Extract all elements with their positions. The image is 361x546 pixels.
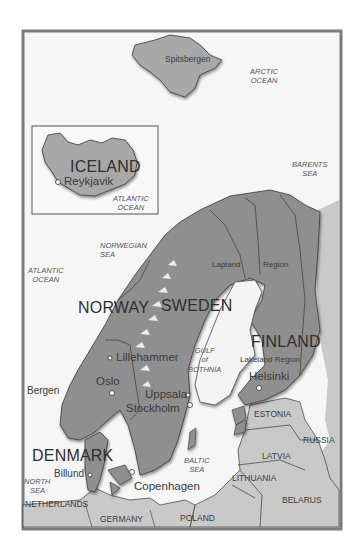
label-arctic-ocean: ARCTICOCEAN bbox=[250, 67, 278, 86]
label-russia: RUSSIA bbox=[303, 436, 335, 445]
label-uppsala: Uppsala bbox=[145, 389, 187, 401]
label-barents-sea: BARENTSSEA bbox=[292, 160, 327, 179]
label-spitsbergen: Spitsbergen bbox=[165, 55, 210, 64]
label-norway: NORWAY bbox=[78, 300, 149, 316]
label-sweden: SWEDEN bbox=[161, 298, 232, 314]
label-copenhagen: Copenhagen bbox=[134, 481, 200, 493]
label-atlantic-ocean: ATLANTICOCEAN bbox=[28, 266, 64, 285]
label-lithuania: LITHUANIA bbox=[232, 474, 276, 483]
label-north-sea: NORTHSEA bbox=[24, 477, 51, 496]
label-iceland: ICELAND bbox=[70, 159, 141, 175]
label-gulf-of-bothnia: GULFofBOTHNIA bbox=[188, 346, 221, 374]
label-poland: POLAND bbox=[180, 514, 215, 523]
label-helsinki: Helsinki bbox=[249, 371, 289, 383]
label-norwegian-sea: NORWEGIANSEA bbox=[100, 241, 147, 260]
label-bergen: Bergen bbox=[27, 386, 59, 396]
label-baltic-sea: BALTICSEA bbox=[184, 456, 210, 475]
label-lapland: Lapland bbox=[212, 261, 240, 269]
label-lakeland-region: Lakeland Region bbox=[240, 356, 300, 364]
label-netherlands: NETHERLANDS bbox=[25, 500, 88, 509]
label-atlantic-ocean-inset: ATLANTICOCEAN bbox=[113, 194, 149, 213]
label-estonia: ESTONIA bbox=[254, 410, 291, 419]
label-region: Region bbox=[263, 261, 288, 269]
label-lillehammer: Lillehammer bbox=[116, 352, 179, 364]
label-latvia: LATVIA bbox=[262, 452, 291, 461]
label-belarus: BELARUS bbox=[282, 496, 322, 505]
label-oslo: Oslo bbox=[96, 376, 120, 388]
label-billund: Billund bbox=[54, 469, 84, 479]
label-denmark: DENMARK bbox=[32, 448, 113, 464]
label-germany: GERMANY bbox=[100, 515, 143, 524]
label-finland: FINLAND bbox=[251, 334, 321, 350]
label-stockholm: Stockholm bbox=[126, 403, 180, 415]
label-reykjavik: Reykjavik bbox=[64, 176, 113, 188]
